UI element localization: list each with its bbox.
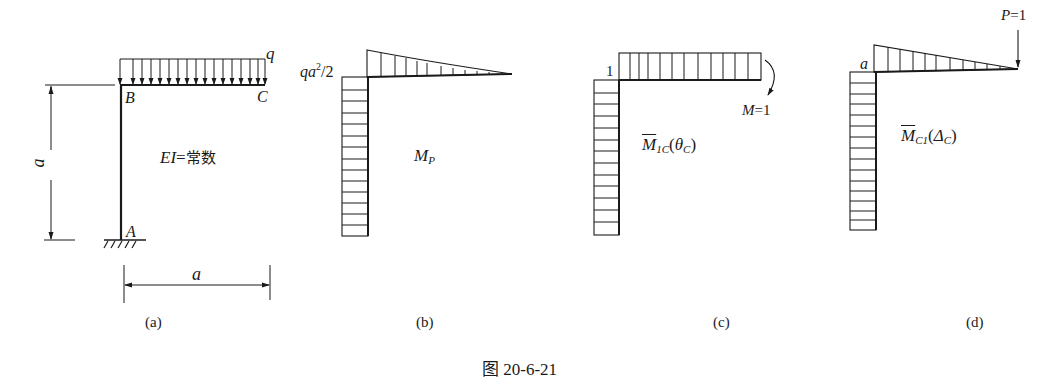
node-label-A: A (126, 224, 136, 240)
stiffness-value: 常数 (186, 149, 216, 167)
unit-load-label: P=1 (1001, 8, 1026, 23)
M-bar-symbol: M (642, 135, 656, 154)
delta-symbol: Δ (934, 126, 944, 145)
load-label-q: q (266, 45, 275, 62)
figure-20-6-21: q B C A a a EI=常数 (a) qa2/2 MP (b) 1 M=1… (0, 0, 1057, 390)
panel-d-tag: (d) (966, 315, 984, 330)
panel-a-frame (44, 59, 270, 303)
distributed-load-arrows (120, 59, 265, 84)
C-subscript: C (944, 134, 951, 146)
equals-one: =1 (755, 102, 771, 118)
M-symbol: M (414, 146, 428, 165)
span-dim-label: a (192, 265, 201, 283)
M-symbol: M (742, 102, 755, 118)
equals-one: =1 (1010, 7, 1026, 23)
diagram-graphics (0, 0, 1057, 390)
stiffness-equals: = (176, 148, 186, 167)
panel-b-moment-diagram (342, 50, 512, 236)
q-symbol: q (300, 63, 308, 80)
figure-caption: 图 20-6-21 (482, 361, 557, 378)
height-dimension (44, 85, 115, 240)
stiffness-symbol: EI (160, 148, 176, 167)
panel-b-tag: (b) (416, 315, 434, 330)
paren-close: ) (690, 135, 696, 154)
unit-moment-label: M=1 (742, 103, 770, 118)
diagram-name-MC1: MC1(ΔC) (901, 127, 957, 146)
P-subscript: P (428, 154, 435, 166)
node-label-C: C (257, 89, 268, 105)
diagram-name-M1C: M1C(θC) (642, 136, 696, 155)
fixed-support-icon (104, 240, 146, 248)
panel-c-tag: (c) (713, 315, 730, 330)
corner-moment-label: qa2/2 (300, 62, 333, 80)
divisor: /2 (321, 63, 333, 80)
a-symbol: a (308, 63, 316, 80)
panel-a-tag: (a) (145, 315, 162, 330)
node-label-B: B (125, 90, 135, 106)
1C-subscript: 1C (656, 143, 669, 155)
C1-subscript: C1 (915, 134, 928, 146)
theta-symbol: θ (675, 135, 683, 154)
stiffness-label: EI=常数 (160, 149, 216, 166)
height-dim-label: a (29, 159, 47, 168)
corner-value-1: 1 (606, 64, 614, 79)
corner-value-a: a (860, 56, 868, 72)
moment-arrow-icon (765, 60, 774, 95)
P-symbol: P (1001, 7, 1010, 23)
M-bar-symbol: M (901, 126, 915, 145)
diagram-name-MP: MP (414, 147, 435, 166)
paren-close: ) (951, 126, 957, 145)
